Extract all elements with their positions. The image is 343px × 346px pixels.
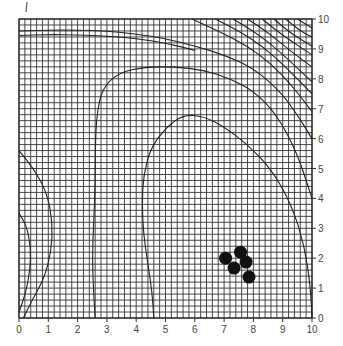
y-tick-label: 3: [318, 223, 324, 234]
x-tick-label: 3: [104, 324, 110, 335]
y-axis-ticks: 012345678910: [312, 14, 330, 324]
data-point: [219, 252, 232, 265]
y-tick-label: 7: [318, 104, 324, 115]
x-tick-label: 2: [75, 324, 81, 335]
x-tick-label: 7: [221, 324, 227, 335]
contour-line: [297, 19, 312, 28]
y-tick-label: 8: [318, 74, 324, 85]
x-tick-label: 10: [306, 324, 318, 335]
y-tick-label: 2: [318, 253, 324, 264]
y-tick-label: 5: [318, 164, 324, 175]
contour-line: [286, 19, 312, 37]
data-point: [243, 271, 256, 284]
x-tick-label: 5: [163, 324, 169, 335]
y-tick-label: 4: [318, 193, 324, 204]
y-tick-label: 0: [318, 313, 324, 324]
data-point: [228, 262, 241, 275]
x-tick-label: 6: [192, 324, 198, 335]
y-tick-label: 6: [318, 134, 324, 145]
y-tick-label: 10: [318, 14, 330, 25]
x-tick-label: 0: [16, 324, 22, 335]
x-tick-label: 1: [46, 324, 52, 335]
x-tick-label: 8: [251, 324, 257, 335]
grid: [19, 19, 312, 318]
corner-mark: [26, 2, 27, 12]
x-tick-label: 4: [133, 324, 139, 335]
contour-chart: 012345678910 012345678910: [0, 0, 343, 346]
x-tick-label: 9: [280, 324, 286, 335]
data-point: [240, 256, 253, 269]
y-tick-label: 1: [318, 283, 324, 294]
y-tick-label: 9: [318, 44, 324, 55]
x-axis-ticks: 012345678910: [16, 318, 318, 335]
